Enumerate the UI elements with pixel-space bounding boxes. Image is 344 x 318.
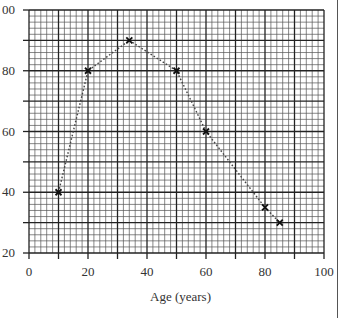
x-tick-label: 20	[82, 265, 95, 278]
right-border-line	[337, 0, 338, 318]
x-tick-label: 40	[141, 265, 154, 278]
x-tick-label: 0	[26, 265, 33, 278]
x-tick-label: 100	[314, 265, 334, 278]
y-tick-label: 20	[2, 246, 15, 259]
y-tick-label: 80	[2, 64, 15, 77]
x-tick-label: 60	[200, 265, 213, 278]
line-chart	[0, 0, 344, 318]
x-axis-title: Age (years)	[150, 289, 211, 305]
y-tick-label: 40	[2, 185, 15, 198]
y-tick-label: 00	[2, 3, 15, 16]
y-tick-label: 60	[2, 125, 15, 138]
x-tick-label: 80	[259, 265, 272, 278]
